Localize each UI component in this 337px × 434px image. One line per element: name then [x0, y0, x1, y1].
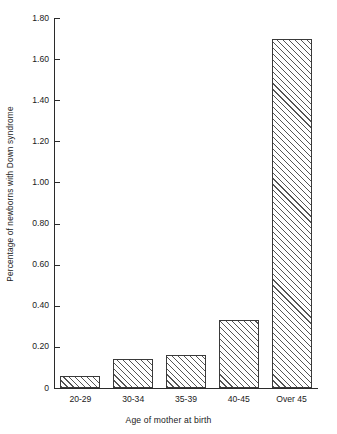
bar — [166, 355, 206, 388]
x-axis-tick-label: 35-39 — [160, 394, 213, 404]
y-axis-tick-mark — [55, 347, 60, 348]
y-axis-tick-mark — [55, 306, 60, 307]
y-axis-tick-label: 1.00 — [14, 178, 49, 187]
y-axis-tick-mark — [55, 59, 60, 60]
bar — [219, 320, 259, 388]
y-axis-line — [54, 18, 55, 389]
bar-chart-figure: Percentage of newborns with Down syndrom… — [0, 0, 337, 434]
bar — [272, 39, 312, 388]
bar — [113, 359, 153, 388]
x-axis-tick-label: 20-29 — [54, 394, 107, 404]
y-axis-tick-label: 0.60 — [14, 260, 49, 269]
y-axis-tick-label: 1.80 — [14, 14, 49, 23]
x-axis-line — [54, 388, 318, 389]
y-axis-tick-label: 0.40 — [14, 301, 49, 310]
y-axis-tick-mark — [55, 141, 60, 142]
plot-area: 20-2930-3435-3940-45Over 45 — [54, 18, 318, 388]
y-axis-tick-mark — [55, 100, 60, 101]
y-axis-tick-label: 1.20 — [14, 137, 49, 146]
y-axis-tick-mark — [55, 224, 60, 225]
y-axis-tick-label: 0 — [14, 384, 49, 393]
y-axis-tick-label: 1.40 — [14, 96, 49, 105]
y-axis-tick-mark — [55, 182, 60, 183]
x-axis-tick-label: 30-34 — [107, 394, 160, 404]
x-axis-tick-label: Over 45 — [265, 394, 318, 404]
y-axis-tick-mark — [55, 265, 60, 266]
y-axis-tick-labels: 00.200.400.600.801.001.201.401.601.80 — [14, 0, 49, 434]
x-axis-tick-label: 40-45 — [212, 394, 265, 404]
y-axis-tick-label: 0.20 — [14, 342, 49, 351]
y-axis-tick-mark — [55, 18, 60, 19]
bar — [60, 376, 100, 388]
x-axis-title: Age of mother at birth — [0, 415, 337, 426]
y-axis-tick-label: 1.60 — [14, 55, 49, 64]
y-axis-tick-label: 0.80 — [14, 219, 49, 228]
